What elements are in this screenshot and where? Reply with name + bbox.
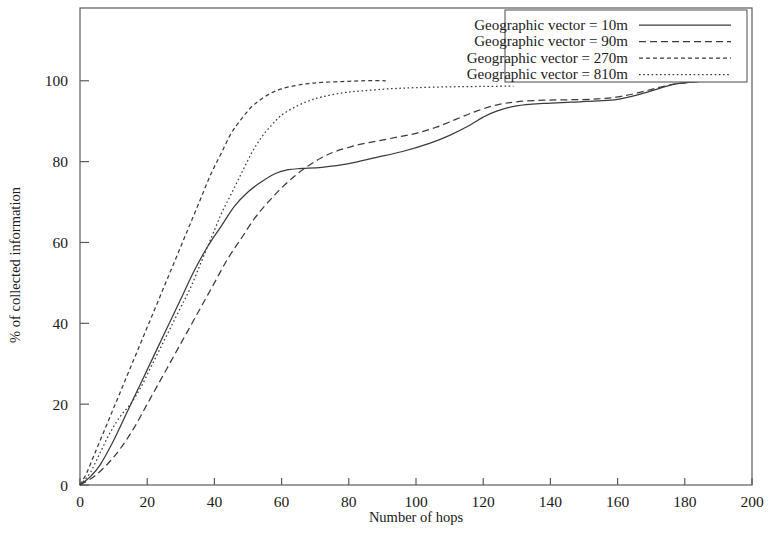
legend-label-2: Geographic vector = 90m bbox=[474, 33, 628, 49]
chart-legend: Geographic vector = 10mGeographic vector… bbox=[467, 10, 747, 82]
x-axis-ticks: 020406080100120140160180200 bbox=[76, 478, 764, 510]
x-tick-label: 0 bbox=[76, 493, 84, 510]
line-chart-canvas: 020406080100120140160180200 020406080100… bbox=[0, 0, 781, 535]
y-axis-title: % of collected information bbox=[7, 186, 23, 343]
series-line-4 bbox=[80, 86, 513, 485]
series-line-1 bbox=[80, 81, 712, 485]
y-axis-ticks: 020406080100 bbox=[45, 72, 89, 493]
y-tick-label: 100 bbox=[45, 72, 69, 89]
x-tick-label: 100 bbox=[404, 493, 428, 510]
x-tick-label: 60 bbox=[274, 493, 290, 510]
x-tick-label: 140 bbox=[539, 493, 563, 510]
legend-label-1: Geographic vector = 10m bbox=[474, 17, 628, 33]
series-line-2 bbox=[80, 81, 712, 485]
y-tick-label: 80 bbox=[53, 153, 69, 170]
x-tick-label: 200 bbox=[740, 493, 764, 510]
x-tick-label: 20 bbox=[139, 493, 155, 510]
chart-figure: 020406080100120140160180200 020406080100… bbox=[0, 0, 781, 535]
x-tick-label: 180 bbox=[673, 493, 697, 510]
x-tick-label: 80 bbox=[341, 493, 357, 510]
data-series-group bbox=[80, 81, 712, 485]
legend-label-4: Geographic vector = 810m bbox=[467, 66, 629, 82]
y-tick-label: 60 bbox=[53, 234, 69, 251]
x-axis-title: Number of hops bbox=[369, 509, 464, 525]
x-tick-label: 40 bbox=[207, 493, 223, 510]
series-line-3 bbox=[80, 81, 386, 485]
y-tick-label: 20 bbox=[53, 396, 69, 413]
y-tick-label: 0 bbox=[60, 477, 68, 494]
x-tick-label: 160 bbox=[606, 493, 630, 510]
x-tick-label: 120 bbox=[472, 493, 496, 510]
legend-label-3: Geographic vector = 270m bbox=[467, 50, 629, 66]
y-tick-label: 40 bbox=[53, 315, 69, 332]
